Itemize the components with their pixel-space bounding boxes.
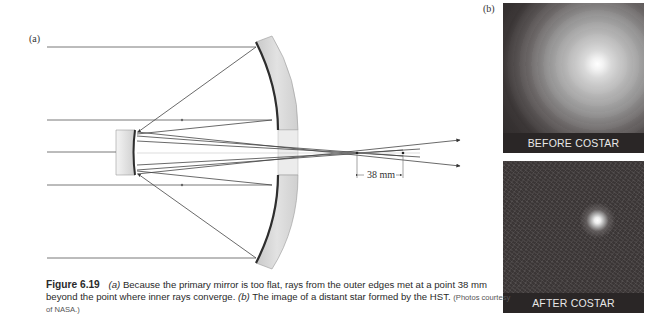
- photo-after-costar: AFTER COSTAR: [503, 161, 644, 313]
- caption-marker-b: (b): [238, 291, 250, 302]
- reflected-rays: [137, 47, 272, 258]
- primary-mirror: [256, 36, 298, 269]
- after-costar-caption: AFTER COSTAR: [503, 293, 644, 313]
- incoming-rays: [47, 47, 272, 258]
- photo-before-costar: BEFORE COSTAR: [503, 3, 644, 153]
- figure-number: Figure 6.19: [46, 279, 100, 290]
- figure-caption: Figure 6.19 (a) Because the primary mirr…: [46, 279, 516, 315]
- secondary-mirror: [116, 130, 135, 175]
- dimension-label-38mm: 38 mm: [367, 169, 395, 180]
- caption-text-b: The image of a distant star formed by th…: [252, 291, 450, 302]
- panel-b-label: (b): [483, 3, 495, 14]
- converging-rays: [137, 132, 460, 174]
- caption-marker-a: (a): [108, 279, 120, 290]
- star-image-sharp: [503, 161, 644, 293]
- star-image-blurred: [503, 3, 644, 133]
- before-costar-caption: BEFORE COSTAR: [503, 133, 644, 153]
- mirror-ray-diagram: [0, 0, 480, 275]
